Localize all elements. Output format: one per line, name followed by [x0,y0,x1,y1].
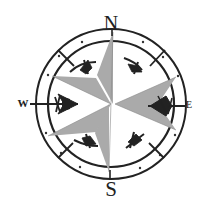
northeast-ornament [124,58,142,74]
southwest-ornament [74,134,98,148]
south-label: S [101,179,121,200]
southeast-ornament [126,132,144,148]
northwest-ornament [70,60,96,74]
east-label: E [183,100,195,110]
north-label: N [101,13,121,33]
west-label: W [16,98,30,109]
